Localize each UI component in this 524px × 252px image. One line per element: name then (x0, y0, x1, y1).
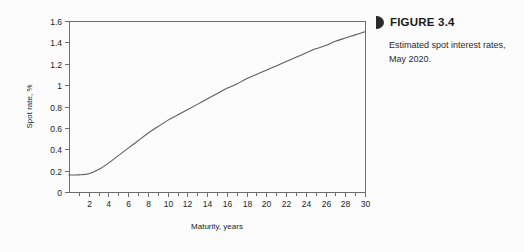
x-axis-tick-label: 8 (146, 199, 151, 209)
x-axis-title: Maturity, years (191, 222, 243, 231)
y-axis-tick-label: 1.6 (50, 17, 62, 27)
x-axis-tick-label: 28 (341, 199, 351, 209)
figure-caption-text: Estimated spot interest rates, May 2020. (389, 39, 507, 66)
figure-caption-block: FIGURE 3.4 Estimated spot interest rates… (376, 14, 518, 66)
x-axis-tick-label: 12 (183, 199, 193, 209)
x-axis-tick-label: 24 (302, 199, 312, 209)
y-axis-tick-label: 0.6 (50, 124, 62, 134)
x-axis-tick-label: 20 (262, 199, 272, 209)
y-axis-tick-label: 0.4 (50, 145, 62, 155)
y-axis-tick-label: 1.2 (50, 60, 62, 70)
x-axis-tick-label: 18 (243, 199, 253, 209)
x-axis-tick-label: 10 (164, 199, 174, 209)
y-axis-tick-label: 1 (57, 81, 62, 91)
x-axis-tick-label: 30 (361, 199, 371, 209)
half-disc-bullet-icon (376, 16, 384, 29)
y-axis-tick-label: 0.8 (50, 103, 62, 113)
y-axis-title: Spot rate, % (25, 84, 34, 128)
x-axis-tick-label: 16 (223, 199, 233, 209)
figure-heading-row: FIGURE 3.4 (376, 14, 518, 30)
x-axis-tick-label: 26 (322, 199, 332, 209)
chart-area: 00.20.40.60.811.21.41.624681012141618202… (0, 0, 380, 252)
y-axis-tick-label: 1.4 (50, 38, 62, 48)
x-axis-tick-label: 2 (87, 199, 92, 209)
figure-container: 00.20.40.60.811.21.41.624681012141618202… (0, 0, 524, 252)
x-axis-tick-label: 4 (106, 199, 111, 209)
y-axis-tick-label: 0.2 (50, 167, 62, 177)
spot-rate-curve (69, 32, 365, 175)
figure-number-label: FIGURE 3.4 (390, 16, 455, 28)
y-axis-tick-label: 0 (57, 188, 62, 198)
spot-rate-line-chart: 00.20.40.60.811.21.41.624681012141618202… (0, 0, 380, 252)
x-axis-tick-label: 22 (282, 199, 292, 209)
x-axis-tick-label: 14 (203, 199, 213, 209)
x-axis-tick-label: 6 (126, 199, 131, 209)
